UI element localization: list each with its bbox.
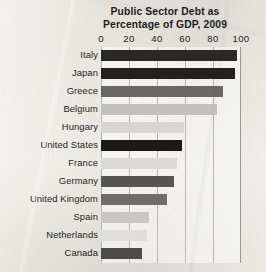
chart-page: Public Sector Debt as Percentage of GDP,…: [0, 0, 266, 272]
bar-row: Germany52: [0, 173, 266, 191]
bar-japan: 96: [101, 68, 235, 79]
bar-value: 83: [101, 104, 102, 105]
category-label-italy: Italy: [80, 49, 98, 60]
category-label-belgium: Belgium: [63, 103, 98, 114]
bar-value: 59: [101, 122, 102, 123]
chart-title: Public Sector Debt as Percentage of GDP,…: [72, 5, 258, 31]
bar-belgium: 83: [101, 104, 217, 115]
category-label-greece: Greece: [67, 85, 98, 96]
bar-value: 58: [101, 140, 102, 141]
bar-value: 87: [101, 86, 102, 87]
bar-value: 47: [101, 194, 102, 195]
bar-italy: 97: [101, 50, 237, 61]
category-label-japan: Japan: [72, 67, 98, 78]
bar-value: 33: [101, 230, 102, 231]
bar-canada: 29: [101, 248, 142, 259]
category-label-france: France: [68, 157, 98, 168]
x-tick-label-80: 80: [207, 33, 218, 44]
bar-row: Canada29: [0, 245, 266, 263]
bar-greece: 87: [101, 86, 223, 97]
bar-row: Japan96: [0, 65, 266, 83]
x-tick-label-60: 60: [179, 33, 190, 44]
bar-value: 52: [101, 176, 102, 177]
bar-row: Greece87: [0, 83, 266, 101]
bar-row: Italy97: [0, 47, 266, 65]
chart-title-line-2: Percentage of GDP, 2009: [72, 18, 258, 31]
x-tick-label-20: 20: [123, 33, 134, 44]
category-label-netherlands: Netherlands: [46, 229, 98, 240]
bar-value: 29: [101, 248, 102, 249]
bar-netherlands: 33: [101, 230, 147, 241]
bar-value: 96: [101, 68, 102, 69]
bar-germany: 52: [101, 176, 174, 187]
category-label-hungary: Hungary: [62, 121, 98, 132]
bar-spain: 34: [101, 212, 149, 223]
x-tick-label-100: 100: [233, 33, 250, 44]
bar-row: Spain34: [0, 209, 266, 227]
bar-value: 34: [101, 212, 102, 213]
bar-row: United States58: [0, 137, 266, 155]
category-label-united-states: United States: [40, 139, 98, 150]
x-tick-label-40: 40: [151, 33, 162, 44]
x-tick-label-0: 0: [98, 33, 104, 44]
bar-value: 97: [101, 50, 102, 51]
bar-row: Hungary59: [0, 119, 266, 137]
bar-united-kingdom: 47: [101, 194, 167, 205]
bar-row: Belgium83: [0, 101, 266, 119]
bar-france: 54: [101, 158, 177, 169]
bar-rows: Italy97Japan96Greece87Belgium83Hungary59…: [0, 47, 266, 263]
x-axis-tick-labels: 020406080100: [0, 33, 266, 47]
bar-row: Netherlands33: [0, 227, 266, 245]
category-label-germany: Germany: [59, 175, 98, 186]
category-label-spain: Spain: [74, 211, 98, 222]
bar-row: United Kingdom47: [0, 191, 266, 209]
bar-row: France54: [0, 155, 266, 173]
bar-value: 54: [101, 158, 102, 159]
category-label-canada: Canada: [65, 247, 98, 258]
chart-title-line-1: Public Sector Debt as: [72, 5, 258, 18]
bar-united-states: 58: [101, 140, 182, 151]
bar-hungary: 59: [101, 122, 184, 133]
category-label-united-kingdom: United Kingdom: [30, 193, 98, 204]
